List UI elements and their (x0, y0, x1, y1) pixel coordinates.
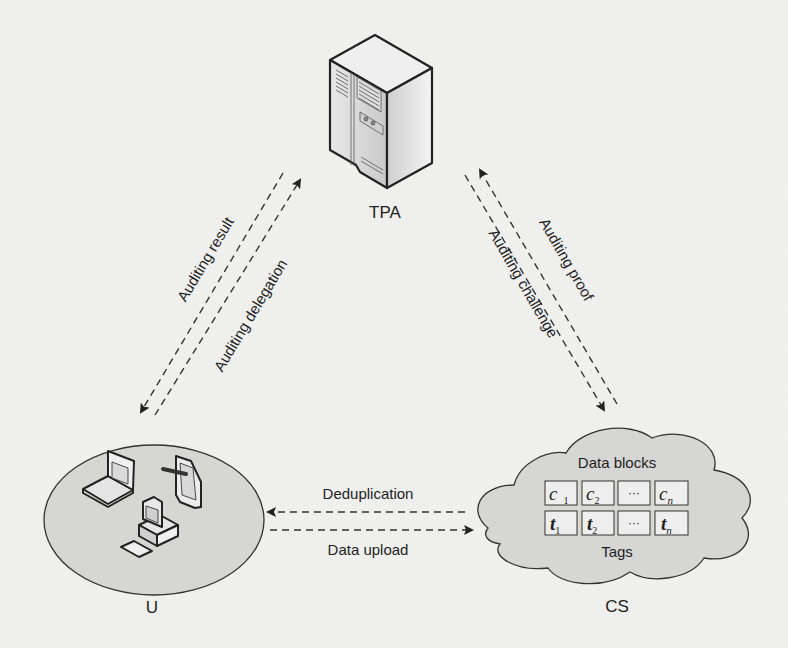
data-block-ellipsis: ··· (628, 486, 640, 500)
deduplication-label: Deduplication (323, 485, 414, 502)
tags-label: Tags (601, 543, 633, 560)
cs-label: CS (605, 597, 629, 616)
tpa-label: TPA (369, 203, 401, 222)
user-label: U (146, 598, 158, 617)
system-model-diagram: TPA U Data blocks (0, 0, 788, 648)
data-blocks-label: Data blocks (578, 454, 656, 471)
tag-ellipsis: ··· (628, 516, 640, 530)
data-upload-label: Data upload (328, 541, 409, 558)
